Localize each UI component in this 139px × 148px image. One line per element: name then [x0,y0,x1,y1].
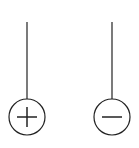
negative-terminal [94,22,130,135]
electrode-diagram [0,0,139,148]
positive-terminal [9,22,45,135]
plus-icon [17,107,37,127]
